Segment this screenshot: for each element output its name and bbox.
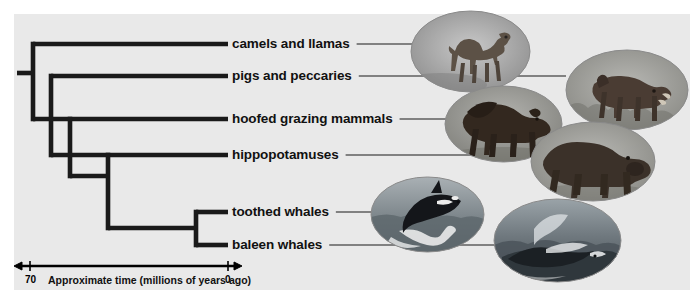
tip-label-pigs: pigs and peccaries xyxy=(232,69,352,83)
tip-label-toothed: toothed whales xyxy=(232,205,329,219)
tip-label-hippos: hippopotamuses xyxy=(232,148,339,162)
axis-arrow-right xyxy=(234,262,242,270)
orca-photo xyxy=(371,177,484,252)
camel-photo xyxy=(395,11,530,97)
hippo-photo xyxy=(531,122,655,204)
humpback-photo xyxy=(494,199,621,282)
axis-left-value: 70 xyxy=(25,275,36,285)
figure-stage: camels and llamaspigs and peccarieshoofe… xyxy=(0,0,700,304)
tip-label-camels: camels and llamas xyxy=(232,37,350,51)
tip-label-hoofed: hoofed grazing mammals xyxy=(232,112,393,126)
photo-group xyxy=(371,11,688,282)
axis-right-value: 0 xyxy=(225,275,231,285)
tree-branches xyxy=(17,42,228,248)
axis-caption: Approximate time (millions of years ago) xyxy=(48,275,251,286)
time-axis xyxy=(14,261,242,271)
warthog-photo xyxy=(566,50,688,133)
cladogram-graphic xyxy=(0,0,700,304)
axis-arrow-left xyxy=(14,262,22,270)
tip-label-baleen: baleen whales xyxy=(232,238,322,252)
